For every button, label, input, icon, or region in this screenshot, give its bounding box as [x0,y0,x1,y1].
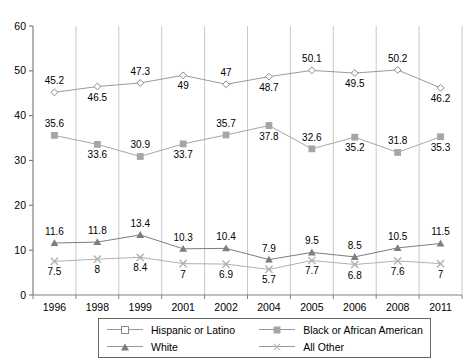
data-label: 35.2 [345,142,365,153]
data-label: 30.9 [131,139,151,150]
x-tick-label: 2006 [343,301,367,313]
data-label: 11.5 [431,226,450,237]
square-filled-icon [257,323,297,337]
data-label: 7.6 [391,266,405,277]
data-label: 49 [178,80,190,91]
data-label: 7.9 [262,243,276,254]
data-label: 13.4 [131,218,151,229]
legend-label: Hispanic or Latino [145,324,235,336]
marker-square-filled [137,153,144,160]
marker-square-filled [51,132,58,139]
marker-square-filled [94,141,101,148]
marker-square-filled [351,134,358,141]
x-tick-label: 2004 [257,301,281,313]
legend-item-all-other[interactable]: All Other [255,338,430,355]
legend-label: White [145,341,178,353]
marker-diamond-open [137,80,144,87]
data-label: 11.6 [45,226,64,237]
data-label: 50.1 [302,53,322,64]
marker-diamond-open [180,72,187,79]
data-label: 35.3 [431,142,451,153]
data-label: 10.3 [173,232,193,243]
y-tick-label: 0 [20,289,26,301]
triangle-filled-icon [105,340,145,354]
data-label: 50.2 [388,53,408,64]
data-label: 47 [220,67,232,78]
marker-diamond-open [437,84,444,91]
x-tick-label: 2002 [214,301,238,313]
y-tick-label: 40 [14,109,26,121]
x-tick-label: 1996 [43,301,67,313]
marker-diamond-open [308,67,315,74]
data-label: 6.9 [219,269,233,280]
data-label: 46.5 [88,92,108,103]
x-tick-label: 2011 [429,301,452,313]
plot-area: 0102030405060199619981999200120022004200… [0,0,469,318]
data-label: 49.5 [345,78,365,89]
legend-row-1: Hispanic or Latino Black or African Amer… [99,321,430,338]
data-label: 8.5 [348,240,362,251]
marker-square-filled [266,122,273,129]
marker-diamond-open [223,81,230,88]
data-label: 32.6 [302,132,322,143]
data-label: 45.2 [45,75,65,86]
marker-diamond-open [51,89,58,96]
data-label: 5.7 [262,274,276,285]
data-label: 7.5 [47,266,61,277]
y-tick-label: 10 [14,244,26,256]
data-label: 7.7 [305,265,319,276]
data-label: 48.7 [259,82,279,93]
data-label: 9.5 [305,235,319,246]
data-label: 37.8 [259,131,279,142]
data-label: 47.3 [131,66,151,77]
x-tick-label: 1999 [129,301,153,313]
data-label: 31.8 [388,135,408,146]
legend-label: Black or African American [297,324,423,336]
data-label: 7 [180,269,186,280]
data-label: 33.6 [88,149,108,160]
data-label: 35.7 [216,118,236,129]
marker-square-filled [180,141,187,148]
data-label: 33.7 [173,149,193,160]
y-tick-label: 60 [14,20,26,32]
y-tick-label: 50 [14,64,26,76]
chart-legend: Hispanic or Latino Black or African Amer… [98,318,431,358]
diamond-open-icon [105,323,145,337]
legend-label: All Other [297,341,344,353]
x-tick-label: 1998 [86,301,110,313]
x-tick-label: 2001 [171,301,195,313]
data-label: 35.6 [45,118,65,129]
y-tick-label: 30 [14,154,26,166]
marker-triangle-filled [308,249,316,256]
data-label: 6.8 [348,270,362,281]
marker-square-filled [394,149,401,156]
marker-diamond-open [394,67,401,74]
data-label: 8 [95,264,101,275]
x-tick-label: 2005 [300,301,324,313]
marker-triangle-filled [437,240,445,247]
data-label: 11.8 [88,225,107,236]
data-label: 7 [438,269,444,280]
x-tick-label: 2008 [386,301,410,313]
x-cross-icon [257,340,297,354]
legend-item-white[interactable]: White [99,338,255,355]
marker-diamond-open [266,73,273,80]
marker-diamond-open [94,83,101,90]
y-tick-label: 20 [14,199,26,211]
marker-square-filled [308,145,315,152]
data-label: 10.4 [216,231,236,242]
marker-square-filled [437,133,444,140]
data-label: 10.5 [388,231,408,242]
data-label: 46.2 [431,93,451,104]
legend-item-hispanic-or-latino[interactable]: Hispanic or Latino [99,321,255,338]
data-label: 8.4 [133,262,147,273]
marker-triangle-filled [136,231,144,238]
legend-row-2: White All Other [99,338,430,355]
marker-square-filled [223,132,230,139]
legend-item-black-or-african-american[interactable]: Black or African American [255,321,430,338]
marker-diamond-open [351,70,358,77]
